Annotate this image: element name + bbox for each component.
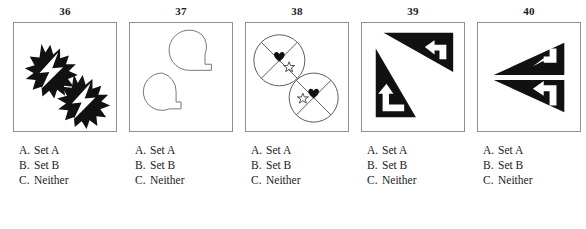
figure-box-38[interactable] — [245, 22, 349, 132]
items-row: 36 — [0, 0, 586, 188]
option-letter: C. — [19, 173, 34, 188]
options-list-38: A. Set A B. Set B C. Neither — [245, 143, 300, 188]
option-row-c[interactable]: C. Neither — [483, 173, 532, 188]
option-text: Set B — [266, 158, 291, 173]
test-items-sheet: 36 — [0, 0, 586, 229]
option-text: Set B — [498, 158, 523, 173]
option-row-b[interactable]: B. Set B — [19, 158, 68, 173]
option-text: Set A — [266, 143, 291, 158]
two-outlined-circles-with-square-tails — [130, 23, 232, 131]
item-number: 37 — [175, 4, 187, 18]
option-letter: C. — [483, 173, 498, 188]
options-list-39: A. Set A B. Set B C. Neither — [361, 143, 416, 188]
option-letter: C. — [135, 173, 150, 188]
option-text: Neither — [498, 173, 532, 188]
option-letter: A. — [251, 143, 266, 158]
option-row-a[interactable]: A. Set A — [19, 143, 68, 158]
figure-box-37[interactable] — [129, 22, 233, 132]
option-row-b[interactable]: B. Set B — [135, 158, 184, 173]
option-letter: B. — [483, 158, 498, 173]
option-text: Set A — [382, 143, 407, 158]
two-black-triangles-with-white-bent-arrows — [362, 23, 464, 131]
option-row-a[interactable]: A. Set A — [367, 143, 416, 158]
option-text: Set B — [382, 158, 407, 173]
option-letter: A. — [19, 143, 34, 158]
option-row-b[interactable]: B. Set B — [251, 158, 300, 173]
triangle-lower — [494, 80, 565, 112]
crossed-circle-upper-left — [254, 35, 305, 86]
test-item-40: 40 — [477, 4, 581, 188]
figure-box-36[interactable] — [13, 22, 117, 132]
crossed-circle-lower-right — [289, 73, 338, 122]
two-spiky-burst-shapes-with-white-lightning-bolts — [14, 23, 116, 131]
option-row-c[interactable]: C. Neither — [367, 173, 416, 188]
option-row-a[interactable]: A. Set A — [483, 143, 532, 158]
option-row-a[interactable]: A. Set A — [135, 143, 184, 158]
option-text: Set B — [150, 158, 175, 173]
options-list-36: A. Set A B. Set B C. Neither — [13, 143, 68, 188]
option-text: Neither — [382, 173, 416, 188]
option-letter: A. — [135, 143, 150, 158]
test-item-39: 39 — [361, 4, 465, 188]
triangle-upper — [494, 43, 565, 75]
test-item-36: 36 — [13, 4, 117, 188]
option-row-b[interactable]: B. Set B — [483, 158, 532, 173]
option-text: Neither — [34, 173, 68, 188]
option-text: Set A — [498, 143, 523, 158]
option-letter: C. — [251, 173, 266, 188]
option-letter: C. — [367, 173, 382, 188]
option-text: Neither — [266, 173, 300, 188]
figure-box-40[interactable] — [477, 22, 581, 132]
two-mirrored-left-triangles-with-white-bent-arrows — [478, 23, 580, 131]
option-text: Set A — [34, 143, 59, 158]
options-list-40: A. Set A B. Set B C. Neither — [477, 143, 532, 188]
item-number: 38 — [291, 4, 303, 18]
triangle-lower-left — [376, 49, 416, 118]
option-letter: B. — [135, 158, 150, 173]
item-number: 40 — [523, 4, 535, 18]
two-crossed-circles-with-heart-and-star — [246, 23, 348, 131]
option-letter: B. — [19, 158, 34, 173]
option-row-c[interactable]: C. Neither — [19, 173, 68, 188]
option-row-b[interactable]: B. Set B — [367, 158, 416, 173]
option-letter: A. — [367, 143, 382, 158]
option-row-c[interactable]: C. Neither — [251, 173, 300, 188]
test-item-38: 38 — [245, 4, 349, 188]
option-row-a[interactable]: A. Set A — [251, 143, 300, 158]
option-letter: A. — [483, 143, 498, 158]
options-list-37: A. Set A B. Set B C. Neither — [129, 143, 184, 188]
item-number: 39 — [407, 4, 419, 18]
option-text: Set B — [34, 158, 59, 173]
option-text: Set A — [150, 143, 175, 158]
option-text: Neither — [150, 173, 184, 188]
triangle-upper-right — [384, 33, 454, 72]
option-letter: B. — [251, 158, 266, 173]
option-row-c[interactable]: C. Neither — [135, 173, 184, 188]
item-number: 36 — [59, 4, 71, 18]
figure-box-39[interactable] — [361, 22, 465, 132]
option-letter: B. — [367, 158, 382, 173]
test-item-37: 37 A. Set A B. Set B — [129, 4, 233, 188]
